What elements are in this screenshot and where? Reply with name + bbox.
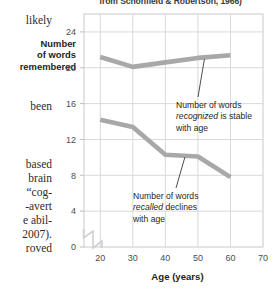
x-tick-label: 20 — [95, 253, 105, 263]
line-chart: 04812162024203040506070Age (years)Number… — [0, 0, 280, 289]
x-tick-label: 60 — [225, 253, 235, 263]
y-tick-label: 0 — [71, 242, 76, 252]
annotation-line: recalled declines — [133, 202, 197, 212]
annotation-emphasis: recognized — [176, 111, 218, 121]
annotation-recognized-note: Number of wordsrecognized is stablewith … — [175, 100, 252, 133]
x-axis-title: Age (years) — [151, 271, 203, 282]
annotation-line: recognized is stable — [176, 111, 252, 121]
x-tick-label: 40 — [160, 253, 170, 263]
annotation-line: with age — [175, 123, 208, 133]
x-tick-label: 50 — [193, 253, 203, 263]
x-tick-label: 70 — [258, 253, 268, 263]
y-tick-label: 24 — [66, 27, 76, 37]
figure-page: from Schonfield & Robertson, 1966) likel… — [0, 0, 280, 289]
annotation-line: Number of words — [133, 191, 198, 201]
x-tick-label: 30 — [128, 253, 138, 263]
annotation-line: Number of words — [176, 100, 241, 110]
annotation-leader-line — [176, 157, 185, 188]
annotation-line: with age — [132, 214, 165, 224]
y-tick-label: 16 — [66, 99, 76, 109]
y-tick-label: 20 — [66, 63, 76, 73]
y-tick-label: 4 — [71, 206, 76, 216]
y-tick-label: 8 — [71, 171, 76, 181]
y-tick-label: 12 — [66, 135, 76, 145]
annotation-emphasis: recalled — [133, 202, 163, 212]
axis-break-icon — [84, 229, 103, 248]
annotation-leader-line — [198, 59, 204, 97]
chart-plot-area: 04812162024203040506070Age (years)Number… — [0, 0, 280, 289]
